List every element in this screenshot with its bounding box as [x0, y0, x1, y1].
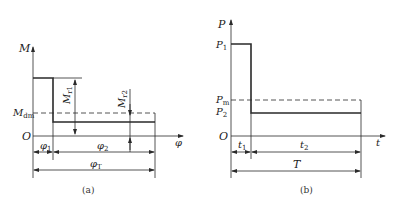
- phi2-label: φ2: [97, 140, 108, 153]
- torque-step-curve: [33, 78, 155, 122]
- origin-label-b: O: [219, 130, 228, 143]
- p1-label: P1: [215, 39, 227, 52]
- T-label: T: [293, 158, 302, 171]
- caption-b: (b): [300, 185, 313, 195]
- t-axis-label: t: [376, 137, 381, 148]
- t1-label: t1: [238, 139, 247, 152]
- figure-b: [231, 20, 385, 178]
- mdm-label: Mdm: [12, 107, 35, 120]
- power-step-curve: [231, 44, 361, 113]
- phi-axis-label: φ: [175, 137, 182, 148]
- origin-label-a: O: [22, 130, 31, 143]
- caption-a: (a): [82, 185, 94, 195]
- phi1-label: φ1: [40, 140, 51, 153]
- p-axis-label: P: [217, 18, 226, 31]
- mr1-label: Mr1: [61, 86, 74, 105]
- p2-label: P2: [215, 106, 227, 119]
- phiT-label: φT: [90, 158, 102, 171]
- t2-label: t2: [300, 139, 309, 152]
- load-diagrams: M O φ Mdm Mr1 Mr2 φ1 φ2 φT (a) P O t P1 …: [0, 0, 397, 207]
- mr2-label: Mr2: [116, 90, 129, 109]
- m-axis-label: M: [18, 42, 31, 55]
- figure-a: [33, 47, 183, 178]
